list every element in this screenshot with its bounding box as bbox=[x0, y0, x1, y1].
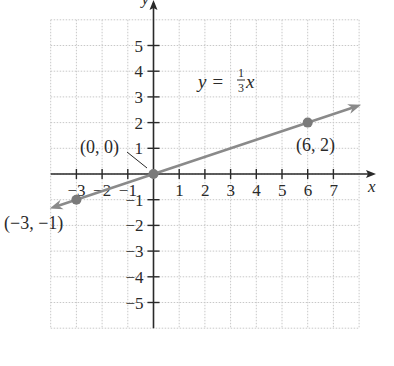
equation-variable: x bbox=[245, 71, 255, 92]
x-tick-label: 2 bbox=[201, 181, 210, 200]
y-tick-label: −5 bbox=[126, 294, 144, 313]
coordinate-plane: xy−3−2−1123456754321−1−2−3−4−5(−3, −1)(0… bbox=[0, 0, 394, 366]
y-tick-label: −1 bbox=[126, 191, 144, 210]
x-tick-label: 6 bbox=[304, 181, 313, 200]
x-tick-label: 5 bbox=[278, 181, 287, 200]
y-tick-label: 2 bbox=[135, 114, 144, 133]
point-label-neg3-neg1: (−3, −1) bbox=[4, 213, 63, 234]
x-tick-label: 3 bbox=[227, 181, 236, 200]
y-axis-label: y bbox=[140, 0, 150, 8]
x-tick-label: 1 bbox=[175, 181, 184, 200]
y-tick-label: 4 bbox=[135, 62, 144, 81]
point-label-6-2: (6, 2) bbox=[296, 135, 335, 156]
plotted-point bbox=[71, 195, 81, 205]
y-tick-label: −4 bbox=[126, 268, 145, 287]
plotted-point bbox=[149, 169, 159, 179]
equation-denominator: 3 bbox=[238, 81, 244, 95]
y-tick-label: −3 bbox=[126, 242, 144, 261]
point-label-origin: (0, 0) bbox=[80, 137, 119, 158]
y-tick-label: 1 bbox=[135, 139, 144, 158]
equation-lhs: y = bbox=[196, 71, 224, 92]
y-tick-label: 3 bbox=[135, 88, 144, 107]
y-tick-label: −2 bbox=[126, 216, 144, 235]
equation-numerator: 1 bbox=[238, 66, 244, 80]
y-tick-label: 5 bbox=[135, 37, 144, 56]
plotted-point bbox=[303, 118, 313, 128]
x-tick-label: 4 bbox=[252, 181, 261, 200]
x-tick-label: 7 bbox=[329, 181, 338, 200]
x-axis-label: x bbox=[367, 177, 376, 196]
